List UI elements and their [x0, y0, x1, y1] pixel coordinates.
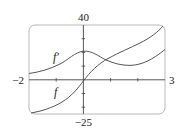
y-max-label: 40 [78, 11, 90, 23]
x-max-label: 3 [169, 74, 175, 86]
f-prime-label: f′ [53, 50, 59, 64]
f-curve [31, 26, 163, 113]
function-graph: 40 −25 −2 3 f′ f [0, 0, 184, 130]
f-label: f [54, 85, 59, 99]
x-min-label: −2 [12, 74, 24, 86]
y-min-label: −25 [75, 116, 93, 128]
f-prime-curve [29, 50, 165, 74]
viewing-window-frame [29, 25, 165, 114]
